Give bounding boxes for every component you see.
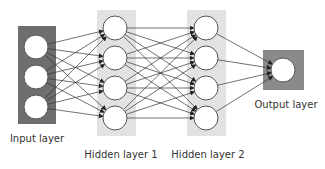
hidden1-node-4: [103, 106, 127, 130]
connection-arrow: [48, 31, 104, 44]
input-layer-label: Input layer: [10, 134, 64, 144]
input-node-3: [24, 95, 48, 119]
hidden2-node-1: [194, 16, 218, 40]
input-node-2: [24, 65, 48, 89]
hidden2-node-4: [194, 106, 218, 130]
hidden2-node-2: [194, 46, 218, 70]
hidden1-node-1: [103, 16, 127, 40]
connections: [44, 28, 272, 118]
hidden1-node-2: [103, 46, 127, 70]
hidden-layer-2-label: Hidden layer 2: [171, 150, 244, 160]
output-node-1: [271, 58, 295, 82]
hidden1-node-3: [103, 76, 127, 100]
output-layer-label: Output layer: [254, 100, 317, 110]
hidden-layer-1-label: Hidden layer 1: [84, 150, 157, 160]
input-node-1: [24, 35, 48, 59]
connection-arrow: [48, 91, 104, 104]
connection-arrow: [48, 109, 103, 117]
hidden2-node-3: [194, 76, 218, 100]
